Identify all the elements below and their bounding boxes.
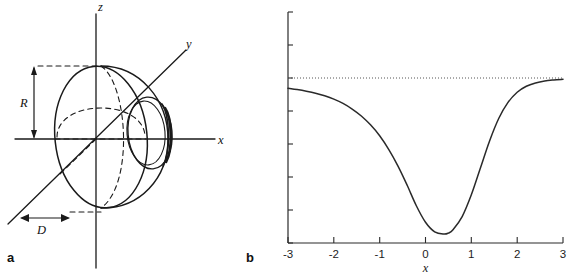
- dimension-arrowheads: [20, 66, 70, 222]
- xtick-label-3: 0: [422, 248, 428, 260]
- r-arrowhead-top: [31, 66, 37, 75]
- figure-root: z x y R D a: [0, 0, 573, 276]
- dimension-label-D: D: [36, 223, 46, 237]
- panel-letter-a: a: [7, 250, 14, 265]
- panel-letter-b: b: [246, 250, 254, 265]
- chart-line-series-potential: [288, 79, 563, 234]
- axis-label-y: y: [184, 37, 192, 51]
- shell-right-edge: [101, 66, 168, 208]
- sphere-outline: [48, 62, 154, 213]
- diagram-svg: z x y R D: [0, 0, 283, 276]
- d-arrowhead-right: [61, 214, 70, 222]
- chart-xticks: [288, 237, 563, 243]
- xtick-label-5: 2: [514, 248, 520, 260]
- panel-b-chart: 0.2 0.1 0 -0.1 -0.2 -0.3 -0.4 -0.5 -3 -2…: [283, 0, 573, 276]
- dimension-label-R: R: [19, 96, 28, 110]
- xtick-label-0: -3: [283, 248, 293, 260]
- chart-xaxis-title: x: [422, 261, 429, 275]
- meridian-dashed: [101, 66, 124, 208]
- xtick-label-2: -1: [375, 248, 385, 260]
- chart-yticks: [288, 12, 293, 243]
- xtick-label-1: -2: [329, 248, 339, 260]
- axis-label-z: z: [97, 0, 103, 14]
- xtick-label-4: 1: [468, 248, 474, 260]
- axis-label-x: x: [217, 133, 224, 147]
- panel-a-diagram: z x y R D a: [0, 0, 283, 276]
- xtick-label-6: 3: [560, 248, 566, 260]
- r-arrowhead-bottom: [31, 130, 37, 139]
- y-axis-back-dashed: [58, 139, 96, 176]
- chart-svg: 0.2 0.1 0 -0.1 -0.2 -0.3 -0.4 -0.5 -3 -2…: [283, 0, 573, 276]
- chart-xtick-labels: -3 -2 -1 0 1 2 3: [283, 248, 566, 260]
- axis-line-y: [8, 50, 186, 224]
- d-arrowhead-left: [20, 214, 29, 222]
